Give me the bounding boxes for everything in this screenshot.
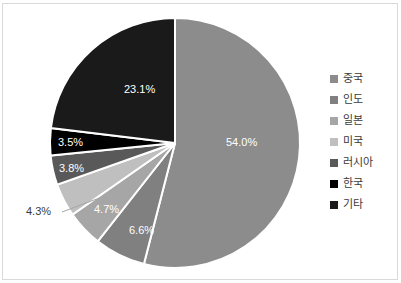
legend-item-인도[interactable]: 인도 <box>330 89 398 110</box>
legend-item-label: 러시아 <box>343 157 373 168</box>
legend-item-기타[interactable]: 기타 <box>330 194 398 215</box>
pie-label-인도: 6.6% <box>129 224 154 236</box>
pie-slice-기타[interactable] <box>51 18 175 143</box>
legend-swatch-icon <box>330 138 338 146</box>
pie-label-일본: 4.7% <box>94 203 119 215</box>
legend-swatch-icon <box>330 201 338 209</box>
pie-label-러시아: 3.8% <box>59 162 84 174</box>
legend-swatch-icon <box>330 159 338 167</box>
legend-item-러시아[interactable]: 러시아 <box>330 152 398 173</box>
legend-item-label: 기타 <box>343 199 363 210</box>
legend-item-label: 한국 <box>343 178 363 189</box>
legend-item-일본[interactable]: 일본 <box>330 110 398 131</box>
chart-legend: 중국인도일본미국러시아한국기타 <box>330 68 398 215</box>
pie-label-기타: 23.1% <box>124 83 155 95</box>
legend-swatch-icon <box>330 117 338 125</box>
legend-swatch-icon <box>330 75 338 83</box>
legend-item-label: 일본 <box>343 115 363 126</box>
legend-item-label: 중국 <box>343 73 363 84</box>
legend-item-한국[interactable]: 한국 <box>330 173 398 194</box>
legend-item-미국[interactable]: 미국 <box>330 131 398 152</box>
pie-slices-group[interactable] <box>50 18 300 268</box>
legend-item-label: 인도 <box>343 94 363 105</box>
pie-label-한국: 3.5% <box>58 136 83 148</box>
pie-label-미국: 4.3% <box>26 205 51 217</box>
legend-swatch-icon <box>330 96 338 104</box>
legend-item-label: 미국 <box>343 136 363 147</box>
legend-item-중국[interactable]: 중국 <box>330 68 398 89</box>
pie-label-중국: 54.0% <box>226 136 257 148</box>
legend-swatch-icon <box>330 180 338 188</box>
